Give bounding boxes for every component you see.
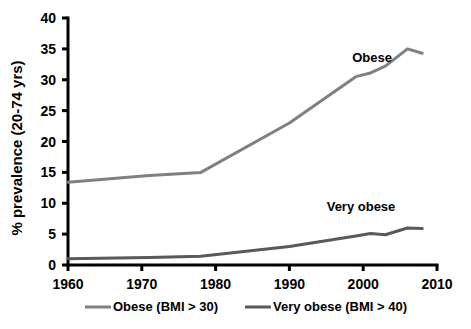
series-annotation-obese: Obese (352, 50, 392, 65)
x-tick-label: 2000 (348, 276, 379, 292)
x-axis-tick-labels: 196019701980199020002010 (52, 276, 452, 292)
y-tick-label: 10 (40, 195, 56, 211)
chart-legend: Obese (BMI > 30)Very obese (BMI > 40) (85, 299, 407, 314)
prevalence-line-chart: % prevalence (20-74 yrs) 051015202530354… (0, 0, 471, 329)
x-tick-label: 1990 (274, 276, 305, 292)
y-axis-title: % prevalence (20-74 yrs) (8, 60, 25, 235)
y-tick-label: 0 (48, 257, 56, 273)
y-tick-label: 30 (40, 72, 56, 88)
y-tick-label: 15 (40, 164, 56, 180)
y-tick-label: 40 (40, 10, 56, 26)
legend-label-1: Very obese (BMI > 40) (273, 299, 407, 314)
y-axis-tick-labels: 0510152025303540 (40, 10, 56, 273)
y-tick-label: 5 (48, 226, 56, 242)
chart-series-group (68, 49, 422, 259)
legend-label-0: Obese (BMI > 30) (113, 299, 218, 314)
series-annotation-very-obese: Very obese (327, 199, 396, 214)
x-tick-label: 2010 (421, 276, 452, 292)
y-tick-label: 35 (40, 41, 56, 57)
y-tick-label: 20 (40, 134, 56, 150)
series-line-1 (68, 228, 422, 259)
y-axis-title-group: % prevalence (20-74 yrs) (8, 60, 25, 235)
y-tick-label: 25 (40, 103, 56, 119)
x-tick-label: 1980 (200, 276, 231, 292)
chart-container: % prevalence (20-74 yrs) 051015202530354… (0, 0, 471, 329)
series-line-0 (68, 49, 422, 182)
x-tick-label: 1960 (52, 276, 83, 292)
x-tick-label: 1970 (126, 276, 157, 292)
